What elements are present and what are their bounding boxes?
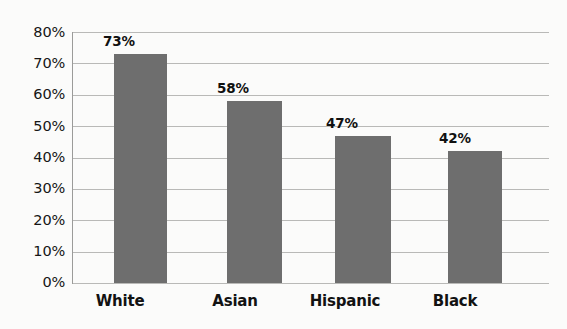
y-axis-tick-label: 0%: [5, 274, 65, 290]
y-axis-tick-label: 10%: [5, 243, 65, 259]
bar-value-label-black: 42%: [430, 130, 480, 146]
x-axis-category-white: White: [90, 292, 150, 310]
y-axis-tick-label: 20%: [5, 212, 65, 228]
y-axis-tick-label: 30%: [5, 180, 65, 196]
y-axis-tick-label: 60%: [5, 86, 65, 102]
bar-value-label-asian: 58%: [208, 80, 258, 96]
y-axis-tick-label: 80%: [5, 24, 65, 40]
plot-area: [72, 32, 549, 283]
bar-chart: 80% 70% 60% 50% 40% 30% 20% 10% 0% 73% 5…: [0, 0, 567, 329]
bar-asian: [227, 101, 282, 283]
x-axis-category-hispanic: Hispanic: [305, 292, 385, 310]
y-axis-tick-label: 40%: [5, 149, 65, 165]
y-axis-line: [72, 32, 73, 284]
bar-value-label-hispanic: 47%: [317, 115, 367, 131]
y-axis-tick-label: 70%: [5, 55, 65, 71]
bar-value-label-white: 73%: [94, 33, 144, 49]
bar-black: [448, 151, 502, 283]
x-axis-category-asian: Asian: [205, 292, 265, 310]
gridline-0-baseline: [72, 283, 549, 284]
bar-white: [114, 54, 167, 283]
x-axis-category-black: Black: [425, 292, 485, 310]
y-axis-tick-label: 50%: [5, 118, 65, 134]
bar-hispanic: [335, 136, 391, 283]
